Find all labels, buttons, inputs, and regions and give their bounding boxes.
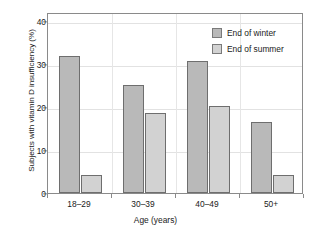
x-axis-tick-mark	[303, 194, 304, 198]
bar	[251, 122, 272, 193]
x-axis-tick-mark	[239, 194, 240, 198]
bar	[209, 106, 230, 193]
bar	[273, 175, 294, 193]
x-axis-tick-label: 50+	[264, 199, 278, 209]
legend-swatch	[212, 44, 222, 54]
y-axis-tick-label: 30	[0, 60, 46, 70]
gridline-vertical	[112, 14, 113, 193]
bar	[123, 85, 144, 193]
gridline-vertical	[176, 14, 177, 193]
gridline-horizontal	[48, 66, 302, 67]
legend-item: End of winter	[212, 26, 284, 40]
bar	[145, 113, 166, 193]
y-axis-tick-label: 10	[0, 146, 46, 156]
legend-swatch	[212, 28, 222, 38]
legend-label: End of winter	[227, 28, 276, 38]
gridline-horizontal	[48, 109, 302, 110]
x-axis-title: Age (years)	[0, 215, 311, 225]
y-axis-tick-label: 40	[0, 17, 46, 27]
y-axis-title: Subjects with vitamin D insufficiency (%…	[27, 6, 36, 196]
bar-chart: Subjects with vitamin D insufficiency (%…	[0, 0, 311, 232]
x-axis-tick-mark	[111, 194, 112, 198]
bar	[187, 61, 208, 193]
y-axis-tick-label: 0	[0, 189, 46, 199]
x-axis-tick-mark	[175, 194, 176, 198]
x-axis-tick-label: 30–39	[131, 199, 154, 209]
bar	[59, 56, 80, 193]
x-axis-tick-label: 40–49	[195, 199, 218, 209]
legend: End of winterEnd of summer	[212, 26, 284, 58]
bar	[81, 175, 102, 193]
legend-label: End of summer	[227, 44, 284, 54]
gridline-horizontal	[48, 23, 302, 24]
legend-item: End of summer	[212, 42, 284, 56]
x-axis-tick-mark	[47, 194, 48, 198]
y-axis-tick-label: 20	[0, 103, 46, 113]
x-axis-tick-label: 18–29	[67, 199, 90, 209]
